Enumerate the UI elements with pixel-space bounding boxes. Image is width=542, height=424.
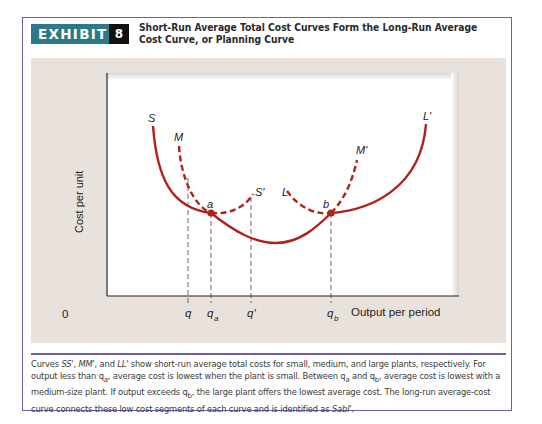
tick-qb: q <box>327 307 334 319</box>
caption-mm: MM' <box>78 359 94 369</box>
y-axis-label: Cost per unit <box>73 171 85 233</box>
chart-area: S M S' L M' L' a b Cost per unit 0 q q a… <box>31 58 506 343</box>
tick-qa: q <box>207 307 214 319</box>
caption-text: , and <box>95 359 118 369</box>
label-m-prime: M' <box>356 144 368 156</box>
caption-sabl: Sabl' <box>332 404 351 414</box>
figure-caption: Curves SS', MM', and LL' show short-run … <box>31 358 507 415</box>
exhibit-frame: EXHIBIT 8 Short-Run Average Total Cost C… <box>22 17 512 411</box>
caption-ss: SS' <box>61 359 73 369</box>
caption-divider <box>31 353 506 355</box>
exhibit-number: 8 <box>109 24 129 44</box>
label-point-a: a <box>207 198 213 210</box>
caption-text: Curves <box>31 359 61 369</box>
caption-text: . <box>351 404 354 414</box>
x-axis-label: Output per period <box>351 306 441 318</box>
origin-label: 0 <box>62 308 68 320</box>
cost-curves-chart: S M S' L M' L' a b Cost per unit 0 q q a… <box>31 58 506 343</box>
panel-shadow-right <box>451 73 459 296</box>
point-a <box>207 209 214 216</box>
caption-ll: LL' <box>117 359 128 369</box>
label-s-prime: S' <box>255 186 265 198</box>
tick-qb-subscript: b <box>334 314 339 323</box>
panel-shadow-top <box>106 73 459 80</box>
label-s: S <box>148 112 156 124</box>
label-l-prime: L' <box>423 110 432 122</box>
caption-text: , average cost is lowest when the plant … <box>108 371 346 381</box>
plot-panel <box>106 73 459 296</box>
tick-q-prime: q' <box>247 307 256 319</box>
exhibit-label: EXHIBIT <box>31 24 115 44</box>
label-l: L <box>282 186 288 198</box>
exhibit-title: Short-Run Average Total Cost Curves Form… <box>139 22 499 46</box>
label-point-b: b <box>323 198 329 210</box>
caption-text: and q <box>350 371 375 381</box>
point-b <box>327 209 334 216</box>
tick-qa-subscript: a <box>214 314 219 323</box>
label-m: M <box>174 131 184 143</box>
tick-q: q <box>185 307 192 319</box>
